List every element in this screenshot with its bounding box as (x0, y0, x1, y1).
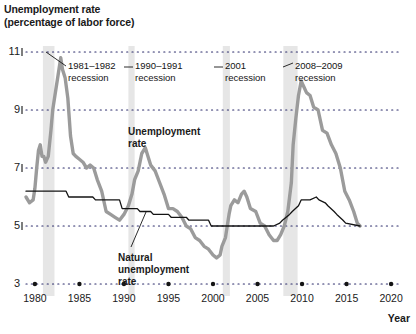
series-annotation-unemployment-rate: Unemployment rate (128, 126, 200, 150)
y-axis-tick-label-11: 11 (4, 45, 20, 57)
recession-label-2008-2009: 2008–2009 recession (295, 60, 343, 83)
x-axis-tick-label-2020: 2020 (371, 292, 411, 304)
recession-label-line2: recession (225, 72, 266, 84)
series-annotation-line2: unemployment (118, 264, 189, 276)
recession-label-2001: 2001 recession (225, 60, 266, 83)
series-annotation-natural-unemployment-rate: Natural unemployment rate (118, 252, 189, 288)
recession-band-1981-1982 (43, 46, 55, 296)
recession-label-line1: 2008–2009 (295, 60, 343, 72)
recession-label-line2: recession (135, 72, 183, 84)
x-axis-tick-label-2005: 2005 (238, 292, 278, 304)
recession-band-2001 (223, 46, 230, 296)
x-axis-title: Year (388, 312, 410, 324)
x-axis-tick-label-2015: 2015 (327, 292, 367, 304)
chart-plot-area (0, 0, 416, 334)
unemployment-rate-chart-figure: Unemployment rate (percentage of labor f… (0, 0, 416, 334)
recession-label-line1: 2001 (225, 60, 266, 72)
x-axis-tick-label-1990: 1990 (104, 292, 144, 304)
x-tick-dot-2015 (344, 282, 348, 286)
series-annotation-line1: Unemployment (128, 126, 200, 138)
recession-label-line2: recession (295, 72, 343, 84)
series-annotation-line1: Natural (118, 252, 189, 264)
x-axis-tick-label-2000: 2000 (193, 292, 233, 304)
series-line-unemployment-rate (26, 58, 360, 258)
y-axis-tick-label-3: 3 (4, 277, 20, 289)
series-line-natural-unemployment-rate (26, 191, 360, 226)
series-annotation-line2: rate (128, 138, 200, 150)
x-tick-dot-1980 (33, 282, 37, 286)
y-axis-tick-label-9: 9 (4, 103, 20, 115)
x-tick-dot-2020 (389, 282, 393, 286)
recession-label-1990-1991: 1990–1991 recession (135, 60, 183, 83)
x-axis-tick-label-1995: 1995 (148, 292, 188, 304)
x-axis-tick-label-2010: 2010 (282, 292, 322, 304)
series-annotation-line3: rate (118, 276, 189, 288)
recession-label-1981-1982: 1981–1982 recession (68, 60, 116, 83)
chart-title-line2: (percentage of labor force) (4, 16, 134, 29)
x-axis-tick-label-1985: 1985 (59, 292, 99, 304)
x-tick-dot-2010 (300, 282, 304, 286)
gridlines-group (22, 48, 400, 284)
chart-title-line1: Unemployment rate (4, 3, 100, 16)
recession-label-line1: 1981–1982 (68, 60, 116, 72)
x-axis-tick-label-1980: 1980 (15, 292, 55, 304)
x-tick-dot-1985 (77, 282, 81, 286)
recession-label-line2: recession (68, 72, 116, 84)
y-axis-tick-label-5: 5 (4, 219, 20, 231)
recession-label-line1: 1990–1991 (135, 60, 183, 72)
y-axis-tick-label-7: 7 (4, 161, 20, 173)
x-tick-dot-2000 (211, 282, 215, 286)
data-series-group (26, 58, 360, 258)
x-tick-dot-2005 (255, 282, 259, 286)
